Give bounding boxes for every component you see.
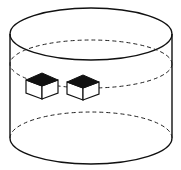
cylinder-bottom-back-arc (10, 112, 172, 138)
cylinder-bottom-front-arc (10, 138, 172, 164)
diagram-canvas (0, 0, 181, 170)
cylinder-top-ellipse (10, 8, 172, 60)
cube-2 (67, 75, 99, 100)
cube-1 (26, 73, 58, 99)
cylinder-diagram (0, 0, 181, 170)
